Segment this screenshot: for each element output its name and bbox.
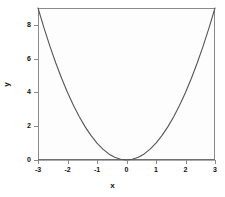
x-tick-label: -1 xyxy=(89,166,105,173)
x-tick-mark xyxy=(97,160,98,164)
y-tick-label: 6 xyxy=(17,55,31,62)
y-tick-label: 4 xyxy=(17,88,31,95)
chart-figure: 02468 -3-2-10123 x y xyxy=(0,0,225,197)
x-tick-label: 1 xyxy=(148,166,164,173)
x-tick-label: -3 xyxy=(30,166,46,173)
y-tick-label: 8 xyxy=(17,21,31,28)
x-tick-label: 3 xyxy=(207,166,223,173)
x-tick-mark xyxy=(38,160,39,164)
plot-canvas xyxy=(38,8,215,160)
x-tick-label: 0 xyxy=(119,166,135,173)
y-tick-label: 0 xyxy=(17,156,31,163)
y-axis-title: y xyxy=(2,75,11,95)
x-tick-mark xyxy=(156,160,157,164)
x-tick-mark xyxy=(186,160,187,164)
parabola-curve xyxy=(38,8,215,160)
x-axis-title: x xyxy=(0,181,225,190)
x-tick-label: -2 xyxy=(60,166,76,173)
y-tick-label: 2 xyxy=(17,122,31,129)
y-tick-mark xyxy=(34,126,38,127)
x-tick-mark xyxy=(68,160,69,164)
x-tick-mark xyxy=(215,160,216,164)
y-tick-mark xyxy=(34,92,38,93)
x-tick-mark xyxy=(127,160,128,164)
y-tick-mark xyxy=(34,25,38,26)
y-tick-mark xyxy=(34,59,38,60)
x-tick-label: 2 xyxy=(178,166,194,173)
